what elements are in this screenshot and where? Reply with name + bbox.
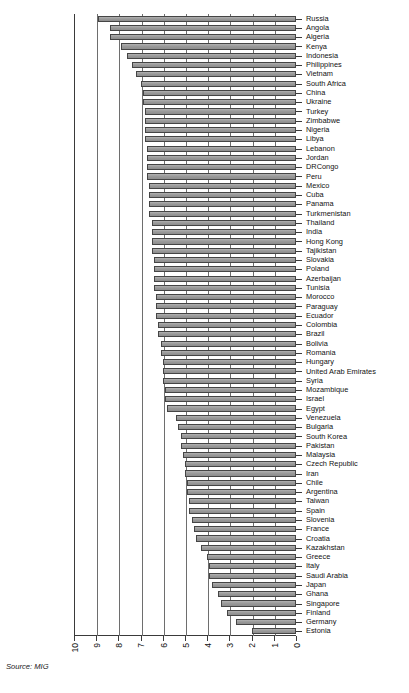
bar-row <box>74 146 296 152</box>
bar <box>158 331 296 337</box>
bar-row <box>74 433 296 439</box>
category-label: Greece <box>306 553 330 560</box>
bar <box>98 16 296 22</box>
category-tick <box>296 232 302 233</box>
bar-row <box>74 192 296 198</box>
category-label: Jordan <box>306 154 329 161</box>
category-label: China <box>306 89 325 96</box>
bar <box>187 489 296 495</box>
bar-row <box>74 341 296 347</box>
category-label: Bulgaria <box>306 423 333 430</box>
x-tick <box>252 636 253 641</box>
bar <box>185 470 296 476</box>
bar <box>209 563 296 569</box>
bar <box>147 146 296 152</box>
category-label: Kazakhstan <box>306 544 345 551</box>
category-label: Hong Kong <box>306 238 343 245</box>
bar <box>163 368 296 374</box>
bar-row <box>74 443 296 449</box>
category-label: Cuba <box>306 191 324 198</box>
bar-row <box>74 99 296 105</box>
bar <box>154 276 296 282</box>
category-tick <box>296 446 302 447</box>
category-label: France <box>306 525 329 532</box>
bar-row <box>74 489 296 495</box>
category-tick <box>296 167 302 168</box>
category-tick <box>296 594 302 595</box>
category-tick <box>296 585 302 586</box>
bar <box>136 71 296 77</box>
bar-row <box>74 173 296 179</box>
category-tick <box>296 269 302 270</box>
category-tick <box>296 279 302 280</box>
x-tick <box>274 636 275 641</box>
bar-row <box>74 368 296 374</box>
bar <box>192 517 296 523</box>
category-label: Morocco <box>306 293 334 300</box>
category-label: Chile <box>306 479 323 486</box>
category-label: Argentina <box>306 488 338 495</box>
category-label: South Africa <box>306 80 346 87</box>
x-tick <box>185 636 186 641</box>
category-label: Poland <box>306 265 329 272</box>
bar <box>110 34 296 40</box>
bar <box>161 350 296 356</box>
bar <box>209 573 296 579</box>
bar-row <box>74 266 296 272</box>
category-tick <box>296 130 302 131</box>
category-label: Turkmenistan <box>306 210 351 217</box>
bar-row <box>74 470 296 476</box>
category-tick <box>296 149 302 150</box>
category-tick <box>296 436 302 437</box>
category-tick <box>296 56 302 57</box>
bar-row <box>74 136 296 142</box>
bar-row <box>74 248 296 254</box>
bar-row <box>74 303 296 309</box>
bar <box>252 628 296 634</box>
bar <box>158 322 296 328</box>
bar <box>221 600 296 606</box>
category-tick <box>296 204 302 205</box>
category-tick <box>296 622 302 623</box>
bar <box>181 443 296 449</box>
category-tick <box>296 316 302 317</box>
bar-row <box>74 545 296 551</box>
category-tick <box>296 102 302 103</box>
category-label: South Korea <box>306 433 347 440</box>
category-tick <box>296 511 302 512</box>
bar-row <box>74 322 296 328</box>
category-tick <box>296 474 302 475</box>
bar <box>189 498 296 504</box>
category-tick <box>296 111 302 112</box>
bar <box>165 396 296 402</box>
bar <box>218 591 296 597</box>
category-tick <box>296 93 302 94</box>
x-tick <box>207 636 208 641</box>
bar-row <box>74 508 296 514</box>
bar <box>181 433 296 439</box>
x-tick-label: 3 <box>225 643 235 648</box>
category-tick <box>296 65 302 66</box>
category-label: Turkey <box>306 108 328 115</box>
category-tick <box>296 520 302 521</box>
bar <box>154 285 296 291</box>
category-tick <box>296 260 302 261</box>
category-tick <box>296 325 302 326</box>
category-tick <box>296 353 302 354</box>
bar <box>121 43 296 49</box>
bar <box>187 480 296 486</box>
category-label: Indonesia <box>306 52 338 59</box>
bar-row <box>74 34 296 40</box>
bar-row <box>74 238 296 244</box>
bar <box>149 192 296 198</box>
category-label: Pakistan <box>306 442 334 449</box>
bar <box>154 266 296 272</box>
category-tick <box>296 501 302 502</box>
bar-row <box>74 573 296 579</box>
bar-row <box>74 517 296 523</box>
bar-row <box>74 461 296 467</box>
bar-row <box>74 81 296 87</box>
bar <box>156 313 296 319</box>
category-tick <box>296 418 302 419</box>
bar-row <box>74 591 296 597</box>
